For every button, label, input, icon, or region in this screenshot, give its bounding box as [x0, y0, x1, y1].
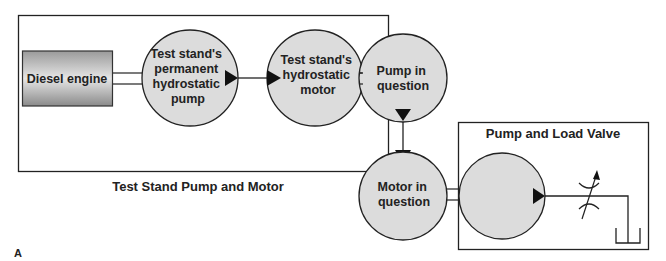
pump-in-question [359, 34, 447, 122]
pump-load-title: Pump and Load Valve [486, 126, 620, 141]
test-pump-line-3: hydrostatic [153, 77, 220, 91]
pump-in-question-line-1: Pump in [377, 64, 426, 78]
test-pump-line-1: Test stand's [151, 47, 223, 61]
svg-text:Pump in question: Pump in question [377, 64, 430, 93]
figure-label: A [14, 247, 22, 259]
pump-in-question-line-2: question [377, 79, 429, 93]
diesel-engine-label: Diesel engine [27, 72, 108, 86]
load-pump [459, 153, 545, 239]
motor-in-question-line-1: Motor in [378, 180, 427, 194]
test-motor-line-3: motor [300, 83, 336, 97]
test-motor-line-1: Test stand's [281, 53, 353, 67]
test-motor-line-2: hydrostatic [283, 68, 350, 82]
motor-in-question-line-2: question [378, 195, 430, 209]
test-pump-line-2: permanent [154, 62, 219, 76]
test-pump-line-4: pump [171, 92, 205, 106]
svg-text:Motor in question: Motor in question [378, 180, 431, 209]
hydrostatic-test-diagram: Diesel engine Test stand's permanent hyd… [0, 0, 666, 261]
load-valve-variable-restrictor-icon [579, 170, 600, 219]
test-stand-title: Test Stand Pump and Motor [112, 179, 284, 194]
shaft-engine-to-pump [112, 73, 143, 84]
